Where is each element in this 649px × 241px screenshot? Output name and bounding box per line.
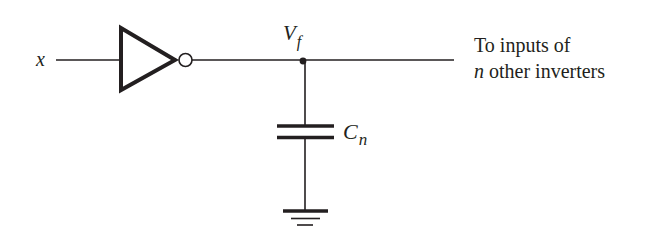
inverter-triangle-icon xyxy=(121,28,175,90)
output-text-line2: n other inverters xyxy=(474,60,605,82)
ground-icon xyxy=(283,211,328,225)
input-label-x: x xyxy=(35,48,45,70)
inversion-bubble-icon xyxy=(179,54,192,67)
circuit-diagram: x Vf Cn To inputs of n other inverters xyxy=(0,0,649,241)
capacitor-label-cn: Cn xyxy=(343,119,367,149)
node-label-vf: Vf xyxy=(283,21,304,51)
output-text-line1: To inputs of xyxy=(474,34,571,57)
